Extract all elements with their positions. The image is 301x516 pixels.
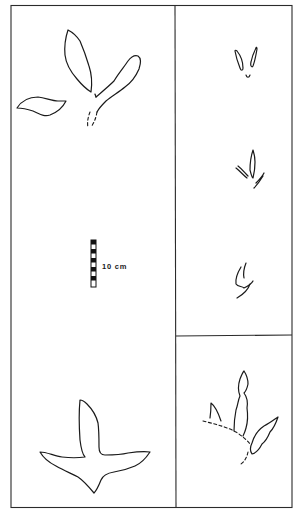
figure-drawing — [0, 0, 301, 516]
track-2 — [236, 150, 264, 188]
track-3 — [236, 263, 253, 298]
outer-frame — [11, 6, 292, 508]
horizontal-divider — [176, 335, 292, 336]
track-1 — [235, 47, 257, 77]
panel-frames — [11, 6, 292, 508]
footprint-right-bottom — [203, 371, 278, 464]
trackway-right-top — [235, 47, 264, 298]
scale-bar — [91, 240, 96, 287]
figure-canvas: 10 cm — [0, 0, 301, 516]
footprint-upper-left — [17, 30, 140, 128]
scale-bar-label: 10 cm — [102, 262, 127, 271]
vertical-divider — [175, 6, 176, 508]
footprint-lower-left — [40, 400, 150, 493]
